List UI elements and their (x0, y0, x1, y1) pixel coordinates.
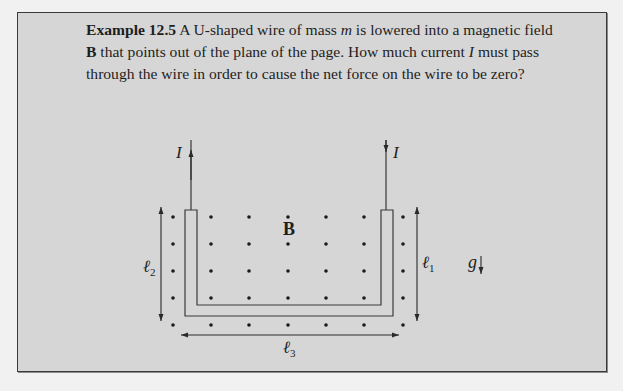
field-dot-icon (324, 215, 328, 219)
field-label: B (283, 219, 295, 239)
field-dot-icon (171, 323, 175, 327)
field-dot-icon (171, 242, 175, 246)
field-dot-icon (324, 242, 328, 246)
field-dot-icon (324, 269, 328, 273)
field-dot-icon (401, 215, 405, 219)
gravity-label: g (468, 252, 477, 272)
field-dot-icon (401, 323, 405, 327)
field-dot-icon (209, 242, 213, 246)
field-dot-icon (247, 323, 251, 327)
u-wire-diagram: I I B ℓ2 ℓ1 ℓ3 g (0, 0, 623, 391)
field-dot-icon (324, 296, 328, 300)
field-dot-icon (401, 269, 405, 273)
current-label-right: I (392, 143, 400, 162)
field-dot-icon (286, 323, 290, 327)
field-dot-icon (171, 269, 175, 273)
field-dot-icon (362, 269, 366, 273)
field-dot-icon (362, 323, 366, 327)
field-dot-icon (209, 323, 213, 327)
field-dot-icon (286, 296, 290, 300)
field-dot-icon (286, 269, 290, 273)
field-dot-icon (401, 242, 405, 246)
field-dot-icon (171, 296, 175, 300)
length-2-label: ℓ2 (143, 257, 156, 278)
field-dot-icon (247, 242, 251, 246)
field-dot-icon (247, 215, 251, 219)
length-1-label: ℓ1 (422, 253, 435, 274)
field-dot-icon (286, 242, 290, 246)
field-dot-icon (247, 269, 251, 273)
field-dot-icon (362, 242, 366, 246)
field-dot-icon (209, 269, 213, 273)
field-dot-icon (362, 296, 366, 300)
field-dot-icon (171, 215, 175, 219)
field-dot-icon (209, 296, 213, 300)
field-dot-icon (324, 323, 328, 327)
field-dot-icon (209, 215, 213, 219)
field-dot-icon (247, 296, 251, 300)
length-3-label: ℓ3 (283, 338, 296, 359)
field-dot-icon (401, 296, 405, 300)
current-label-left: I (175, 143, 183, 162)
field-dot-icon (362, 215, 366, 219)
